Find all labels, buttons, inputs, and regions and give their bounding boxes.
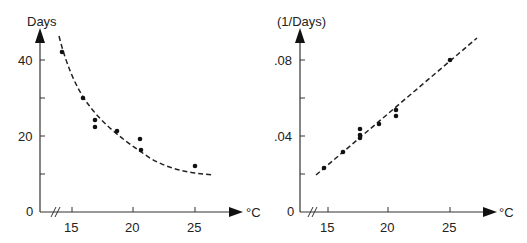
chart-canvas: Days °C 40 20 0 15 20 25 <box>0 0 527 243</box>
right-x-arrow-icon <box>483 207 497 217</box>
right-y-tick-label: .08 <box>274 53 292 68</box>
left-y-axis-title: Days <box>27 14 57 29</box>
left-y-tick-label: 40 <box>18 53 32 68</box>
right-data-points <box>322 58 453 171</box>
right-y-arrow-icon <box>295 28 305 43</box>
left-y-tick-label: 20 <box>18 129 32 144</box>
right-y-axis-title: (1/Days) <box>277 14 326 29</box>
left-x-arrow-icon <box>229 207 243 217</box>
right-x-axis-title: °C <box>499 205 514 220</box>
left-fit-curve <box>59 36 213 175</box>
right-fit-line <box>316 38 477 175</box>
right-x-tick-label: 15 <box>320 220 334 235</box>
left-y-arrow-icon <box>35 28 45 43</box>
right-x-tick-label: 20 <box>380 220 394 235</box>
right-y-tick-label: 0 <box>287 204 294 219</box>
right-y-tick-label: .04 <box>274 129 292 144</box>
chart-left: Days °C 40 20 0 15 20 25 <box>18 14 261 235</box>
left-x-tick-label: 15 <box>64 220 78 235</box>
left-x-tick-label: 25 <box>187 220 201 235</box>
left-data-points <box>60 50 198 169</box>
left-x-axis-title: °C <box>246 205 261 220</box>
left-x-tick-label: 20 <box>125 220 139 235</box>
right-x-tick-label: 25 <box>442 220 456 235</box>
left-y-tick-label: 0 <box>26 204 33 219</box>
chart-right: (1/Days) °C .08 .04 0 15 20 25 <box>274 14 514 235</box>
